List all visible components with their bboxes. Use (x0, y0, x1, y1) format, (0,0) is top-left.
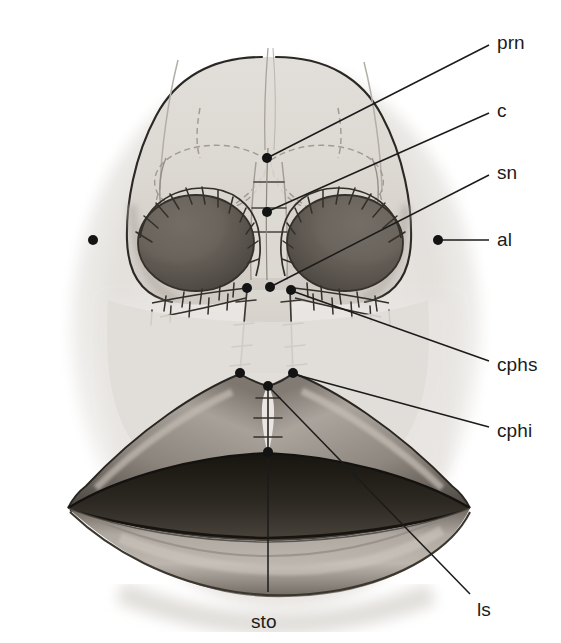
landmark-dot-c (262, 207, 272, 217)
landmark-dot-cphi-left (235, 368, 245, 378)
label-prn: prn (497, 33, 525, 52)
label-ls: ls (477, 600, 491, 619)
landmark-dot-cphs-left (242, 283, 252, 293)
label-al: al (497, 230, 512, 249)
label-c: c (497, 101, 507, 120)
landmark-dot-sto (263, 447, 273, 457)
label-sto: sto (251, 612, 277, 631)
landmark-dot-prn (262, 153, 272, 163)
anatomical-figure: prn c sn al cphs cphi ls sto (0, 0, 561, 643)
landmark-dot-cphs (286, 285, 296, 295)
landmark-dot-al-right (433, 235, 443, 245)
landmark-dot-cphi (288, 368, 298, 378)
label-cphi: cphi (497, 421, 532, 440)
label-cphs: cphs (497, 355, 538, 374)
illustration-canvas (0, 0, 561, 643)
landmark-dot-al-left (88, 235, 98, 245)
landmark-dot-sn (265, 282, 275, 292)
label-sn: sn (497, 163, 517, 182)
landmark-dot-ls (263, 381, 273, 391)
